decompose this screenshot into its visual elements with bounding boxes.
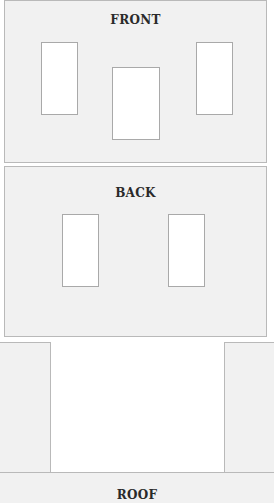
back-panel: BACK — [4, 166, 267, 337]
front-panel: FRONT — [4, 0, 267, 163]
back-label: BACK — [5, 186, 266, 200]
back-window-right — [168, 214, 205, 287]
roof-panel: ROOF — [0, 342, 274, 503]
front-window-right — [196, 42, 233, 115]
front-label: FRONT — [5, 13, 266, 27]
roof-cutout — [50, 342, 225, 473]
roof-label: ROOF — [0, 488, 274, 502]
front-window-left — [41, 42, 78, 115]
back-window-left — [62, 214, 99, 287]
front-door-center — [112, 67, 160, 140]
